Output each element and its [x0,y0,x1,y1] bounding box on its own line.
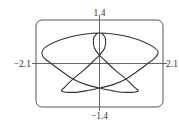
y-min-label: −1.4 [91,111,108,121]
parametric-curve [42,33,158,92]
parametric-plot: 1.4 −1.4 −2.1 2.1 [0,0,179,122]
x-max-label: 2.1 [166,59,178,69]
y-max-label: 1.4 [94,8,106,18]
x-min-label: −2.1 [14,59,31,69]
